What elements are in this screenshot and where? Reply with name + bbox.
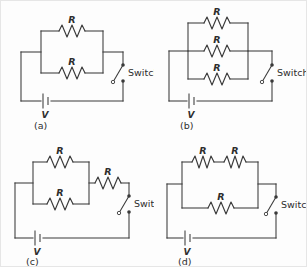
parallel-block-d xyxy=(182,156,258,214)
resistor-zigzag-b3 xyxy=(204,73,230,85)
switch-symbol-b[interactable] xyxy=(260,63,274,84)
switch-symbol-a[interactable] xyxy=(111,63,124,84)
resistor-label-d2: R xyxy=(231,145,238,156)
circuit-panel-c: R R R V Switch (c) xyxy=(1,134,154,267)
battery-label-a: V xyxy=(42,110,50,120)
switch-label-c: Switch xyxy=(134,198,154,209)
switch-pivot-d xyxy=(264,212,267,215)
circuit-panel-a: R R V Switch (a) xyxy=(1,1,154,134)
switch-lever-d xyxy=(266,197,276,214)
resistor-label-b2: R xyxy=(213,34,220,45)
switch-pivot-b xyxy=(260,80,263,83)
resistor-label-d3: R xyxy=(217,191,224,202)
resistor-zigzag-d3 xyxy=(208,202,234,214)
resistor-label-a1: R xyxy=(68,14,75,25)
switch-label-d: Switch xyxy=(281,199,307,210)
switch-pivot-c xyxy=(117,211,120,214)
switch-label-b: Switch xyxy=(277,67,307,78)
parallel-block-a xyxy=(41,25,103,79)
switch-terminal-bottom-c xyxy=(127,210,131,214)
switch-symbol-d[interactable] xyxy=(264,195,278,216)
resistor-zigzag-b2 xyxy=(204,45,230,57)
parallel-block-b xyxy=(188,17,248,85)
resistor-label-c2: R xyxy=(56,187,63,198)
series-resistor-c xyxy=(89,177,129,189)
switch-label-a: Switch xyxy=(128,67,154,78)
resistor-zigzag-a1 xyxy=(59,25,85,37)
switch-lever-c xyxy=(119,196,129,213)
switch-pivot-a xyxy=(111,80,114,83)
resistor-label-c3: R xyxy=(104,166,111,177)
resistor-label-b1: R xyxy=(213,6,220,17)
battery-symbol-c xyxy=(35,231,40,245)
panel-caption-c: (c) xyxy=(26,256,39,267)
resistor-zigzag-d2 xyxy=(224,156,246,168)
switch-symbol-c[interactable] xyxy=(117,194,131,215)
switch-terminal-bottom-a xyxy=(121,79,125,83)
resistor-label-c1: R xyxy=(56,145,63,156)
battery-label-b: V xyxy=(188,110,196,120)
switch-lever-b xyxy=(262,65,272,82)
panel-caption-a: (a) xyxy=(34,120,47,131)
battery-symbol-b xyxy=(189,94,194,108)
panel-caption-d: (d) xyxy=(178,256,191,267)
resistor-zigzag-d1 xyxy=(192,156,214,168)
panel-caption-b: (b) xyxy=(180,120,193,131)
switch-terminal-bottom-b xyxy=(270,79,274,83)
resistor-zigzag-c3 xyxy=(95,177,121,189)
figure-canvas: R R V Switch (a) xyxy=(0,0,307,267)
resistor-zigzag-a2 xyxy=(59,67,85,79)
parallel-block-c xyxy=(33,156,89,210)
resistor-zigzag-c2 xyxy=(47,198,73,210)
resistor-zigzag-c1 xyxy=(47,156,73,168)
battery-symbol-a xyxy=(43,94,48,108)
switch-terminal-bottom-d xyxy=(274,211,278,215)
resistor-label-b3: R xyxy=(213,62,220,73)
circuit-panel-d: R R R V Switch (d) xyxy=(154,134,307,267)
switch-lever-a xyxy=(113,65,123,82)
resistor-label-a2: R xyxy=(68,56,75,67)
circuit-panel-b: R R R V Switch (b) xyxy=(154,1,307,134)
battery-symbol-d xyxy=(185,231,190,245)
resistor-label-d1: R xyxy=(199,145,206,156)
resistor-zigzag-b1 xyxy=(204,17,230,29)
